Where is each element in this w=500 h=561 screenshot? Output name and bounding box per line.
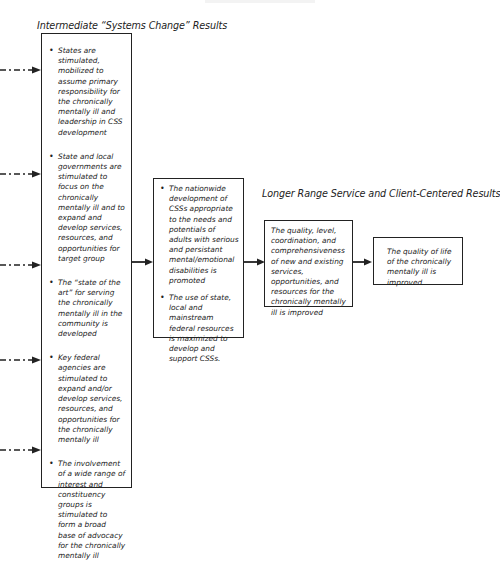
dashed-arrow-icon: [0, 169, 42, 179]
dashed-arrow-icon: [0, 260, 42, 270]
cropped-top-text: [205, 0, 315, 3]
intermediate-item-2: State and local governments are stimulat…: [49, 152, 126, 264]
intermediate-item-3: The “state of the art” for serving the c…: [49, 278, 126, 339]
middle-item-1: The nationwide development of CSSs appro…: [160, 184, 239, 286]
intermediate-item-1: States are stimulated, mobilized to assu…: [49, 46, 126, 138]
arrow-right-icon: [244, 257, 266, 267]
intermediate-item-5: The involvement of a wide range of inter…: [49, 459, 126, 561]
intermediate-item-4: Key federal agencies are stimulated to e…: [49, 353, 126, 445]
css-development-box: The nationwide development of CSSs appro…: [153, 178, 244, 338]
intermediate-results-box: States are stimulated, mobilized to assu…: [41, 33, 132, 488]
dashed-arrow-icon: [0, 65, 42, 75]
arrow-right-icon: [353, 257, 373, 267]
quality-of-life-box: The quality of life of the chronically m…: [373, 237, 463, 285]
longer-range-heading: Longer Range Service and Client-Centered…: [262, 188, 500, 199]
intermediate-heading: Intermediate “Systems Change” Results: [37, 20, 227, 31]
arrow-right-icon: [132, 257, 154, 267]
dashed-arrow-icon: [0, 445, 42, 455]
dashed-arrow-icon: [0, 355, 42, 365]
middle-item-2: The use of state, local and mainstream f…: [160, 293, 239, 364]
quality-of-life-text: The quality of life of the chronically m…: [387, 247, 458, 288]
service-results-box: The quality, level, coordination, and co…: [264, 220, 353, 307]
service-results-text: The quality, level, coordination, and co…: [271, 226, 348, 318]
